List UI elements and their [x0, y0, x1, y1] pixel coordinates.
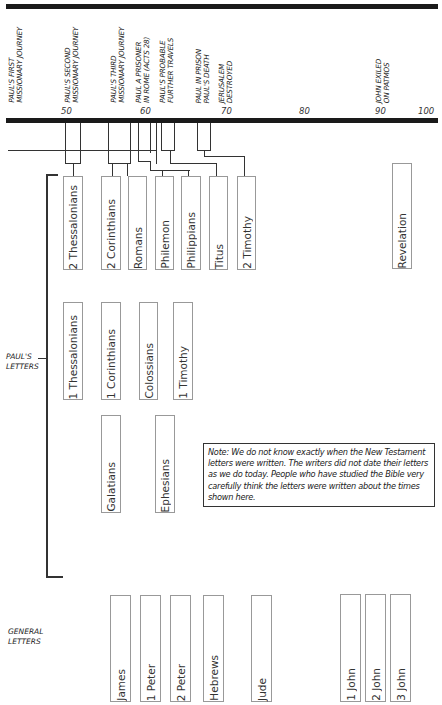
book-philemon: Philemon — [155, 176, 174, 270]
book-1-corinthians: 1 Corinthians — [101, 302, 121, 400]
event-label: Paul's First Missionary Journey — [8, 27, 24, 103]
book-james: James — [110, 595, 131, 702]
book-1-timothy: 1 Timothy — [173, 302, 193, 400]
book-philippians: Philippians — [181, 176, 201, 270]
event-label: Paul's Second Missionary Journey — [64, 27, 80, 103]
bracket-label-tick — [38, 358, 46, 359]
book-2-corinthians: 2 Corinthians — [101, 176, 121, 270]
book-2-peter: 2 Peter — [170, 595, 191, 702]
book-galatians: Galatians — [101, 415, 121, 513]
year-tick-label: 70 — [221, 106, 232, 116]
book-romans: Romans — [128, 176, 147, 270]
event-label: John Exiled on Patmos — [375, 59, 391, 103]
event-label: Paul's Probable Further Travels — [159, 38, 175, 103]
event-label: Paul a Prisoner in Rome (Acts 28) — [135, 37, 151, 103]
timeline-axis-bar — [6, 118, 438, 123]
event-label: Paul's Third Missionary Journey — [110, 27, 126, 103]
book-1-thessalonians: 1 Thessalonians — [63, 302, 83, 400]
event-label: Jerusalem Destroyed — [218, 61, 234, 103]
book-revelation: Revelation — [392, 163, 412, 269]
section-label-pauls-letters: Paul's Letters — [6, 352, 39, 372]
timeline-top-bar — [6, 4, 438, 9]
book-titus: Titus — [209, 176, 228, 270]
book-2-timothy: 2 Timothy — [237, 176, 256, 270]
book-2-john: 2 John — [365, 594, 386, 702]
book-2-thessalonians: 2 Thessalonians — [63, 176, 83, 270]
year-tick-label: 50 — [61, 106, 72, 116]
book-1-john: 1 John — [340, 594, 361, 702]
book-ephesians: Ephesians — [155, 415, 175, 513]
book-1-peter: 1 Peter — [140, 595, 161, 702]
year-tick-label: 90 — [375, 106, 386, 116]
book-colossians: Colossians — [139, 302, 158, 400]
note-box: Note: We do not know exactly when the Ne… — [203, 443, 435, 507]
year-tick-label: 100 — [418, 106, 434, 116]
year-tick-label: 60 — [140, 106, 151, 116]
year-tick-label: 80 — [299, 106, 310, 116]
pauls-letters-bracket — [46, 174, 48, 576]
bracket-bottom-tick — [46, 576, 63, 578]
book-3-john: 3 John — [390, 594, 411, 702]
bracket-top-tick — [46, 174, 58, 176]
book-jude: Jude — [251, 595, 272, 702]
section-label-general-letters: General Letters — [8, 627, 43, 647]
book-hebrews: Hebrews — [203, 595, 224, 702]
event-label: Paul in Prison Paul's Death — [195, 49, 211, 103]
timeline-divider — [8, 150, 156, 151]
